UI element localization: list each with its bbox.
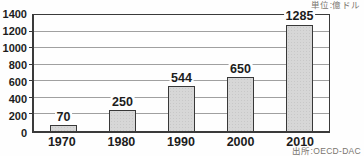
- y-tick-label: 600: [9, 77, 27, 88]
- bar-slot: 650: [211, 15, 270, 131]
- bar-2010: [286, 25, 313, 131]
- unit-label: 単位:億ドル: [311, 1, 361, 10]
- x-axis: 19701980199020002010: [32, 136, 330, 151]
- y-tick-mark: [29, 113, 33, 114]
- y-axis: 0200400600800100012001400: [0, 14, 27, 133]
- y-tick-mark: [29, 31, 33, 32]
- y-tick-label: 800: [9, 60, 27, 71]
- bar-value-label: 650: [228, 63, 253, 76]
- x-tick-label: 2000: [211, 136, 271, 151]
- y-tick-label: 1200: [3, 26, 27, 37]
- x-tick-label: 1980: [92, 136, 152, 151]
- bars-group: 702505446501285: [34, 15, 329, 131]
- bar-value-label: 70: [55, 111, 73, 124]
- x-tick-label: 1970: [32, 136, 92, 151]
- bar-1990: [168, 86, 195, 131]
- x-tick-label: 1990: [151, 136, 211, 151]
- y-tick-mark: [29, 64, 33, 65]
- bar-2000: [227, 77, 254, 131]
- y-tick-mark: [29, 80, 33, 81]
- y-tick-label: 1400: [3, 9, 27, 20]
- y-tick-mark: [29, 47, 33, 48]
- bar-value-label: 250: [110, 96, 135, 109]
- bar-value-label: 1285: [284, 10, 316, 23]
- bar-slot: 70: [34, 15, 93, 131]
- bar-1970: [50, 125, 77, 131]
- bar-value-label: 544: [169, 72, 194, 85]
- y-tick-label: 200: [9, 111, 27, 122]
- source-label: 出所:OECD-DAC: [292, 147, 361, 156]
- bar-chart: 単位:億ドル 0200400600800100012001400 7025054…: [0, 0, 364, 156]
- bar-slot: 1285: [270, 15, 329, 131]
- y-tick-mark: [29, 97, 33, 98]
- bar-slot: 544: [152, 15, 211, 131]
- y-tick-label: 400: [9, 94, 27, 105]
- plot-area: 702505446501285: [32, 14, 330, 133]
- bar-1980: [109, 110, 136, 131]
- y-tick-label: 0: [21, 128, 27, 139]
- y-tick-label: 1000: [3, 43, 27, 54]
- bar-slot: 250: [93, 15, 152, 131]
